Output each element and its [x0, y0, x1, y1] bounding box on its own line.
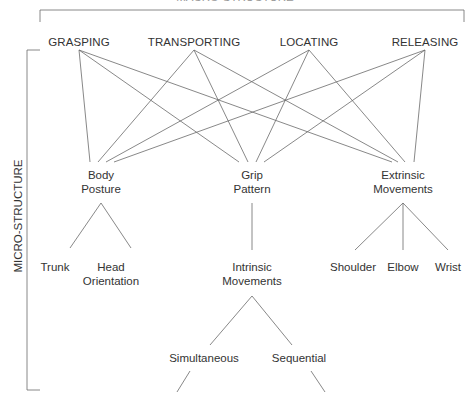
node-wrist: Wrist	[435, 260, 461, 274]
node-shoulder: Shoulder	[330, 260, 376, 274]
phase-releasing: RELEASING	[392, 35, 459, 49]
node-head-orientation: Head Orientation	[83, 260, 139, 288]
node-intrinsic-line2: Movements	[222, 274, 281, 288]
node-intrinsic-movements: Intrinsic Movements	[222, 260, 281, 288]
node-sequential: Sequential	[272, 351, 326, 365]
node-grip-pattern-line1: Grip	[233, 168, 270, 182]
node-extrinsic-line2: Movements	[373, 182, 432, 196]
node-body-posture: Body Posture	[81, 168, 121, 196]
node-extrinsic-line1: Extrinsic	[373, 168, 432, 182]
node-head-line1: Head	[83, 260, 139, 274]
node-body-posture-line2: Posture	[81, 182, 121, 196]
node-head-line2: Orientation	[83, 274, 139, 288]
node-body-posture-line1: Body	[81, 168, 121, 182]
node-extrinsic-movements: Extrinsic Movements	[373, 168, 432, 196]
node-grip-pattern: Grip Pattern	[233, 168, 270, 196]
micro-bracket	[27, 50, 40, 390]
node-trunk: Trunk	[41, 260, 70, 274]
macro-structure-title: MACRO-STRUCTURE	[176, 0, 294, 3]
node-grip-pattern-line2: Pattern	[233, 182, 270, 196]
phase-locating: LOCATING	[280, 35, 339, 49]
node-simultaneous: Simultaneous	[169, 351, 239, 365]
phase-grasping: GRASPING	[48, 35, 110, 49]
node-elbow: Elbow	[387, 260, 418, 274]
phase-transporting: TRANSPORTING	[148, 35, 240, 49]
node-intrinsic-line1: Intrinsic	[222, 260, 281, 274]
connector-lines	[0, 0, 471, 397]
macro-micro-structure-diagram: MACRO-STRUCTURE MICRO-STRUCTURE GRASPING…	[0, 0, 471, 397]
micro-structure-title: MICRO-STRUCTURE	[12, 156, 24, 276]
macro-bracket	[40, 10, 464, 22]
